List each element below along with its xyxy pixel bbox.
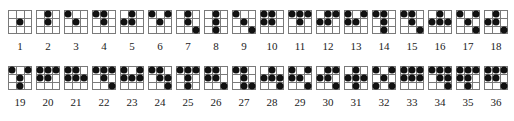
- dot-marker: [297, 19, 304, 26]
- dot-marker: [381, 27, 388, 34]
- dot-marker: [249, 83, 256, 90]
- figure-number-label: 16: [428, 40, 452, 52]
- dot-marker: [401, 67, 408, 74]
- dot-marker: [501, 67, 508, 74]
- figure-number-label: 5: [120, 40, 144, 52]
- dot-marker: [445, 83, 452, 90]
- dot-marker: [437, 11, 444, 18]
- dot-marker: [333, 83, 340, 90]
- dot-marker: [157, 75, 164, 82]
- dot-marker: [457, 11, 464, 18]
- dot-marker: [241, 67, 248, 74]
- dot-marker: [17, 75, 24, 82]
- dot-marker: [37, 75, 44, 82]
- dot-marker: [409, 67, 416, 74]
- dot-marker: [137, 67, 144, 74]
- dot-marker: [101, 67, 108, 74]
- dot-marker: [473, 67, 480, 74]
- dot-marker: [261, 11, 268, 18]
- dot-marker: [185, 83, 192, 90]
- dot-marker: [353, 67, 360, 74]
- dot-marker: [381, 11, 388, 18]
- dot-marker: [493, 75, 500, 82]
- dot-marker: [185, 11, 192, 18]
- dot-marker: [165, 11, 172, 18]
- dot-marker: [473, 27, 480, 34]
- dot-marker: [261, 75, 268, 82]
- dot-marker: [101, 11, 108, 18]
- figure-number-label: 26: [204, 96, 228, 108]
- dot-marker: [437, 75, 444, 82]
- dot-marker: [289, 11, 296, 18]
- dot-marker: [73, 75, 80, 82]
- dot-marker: [445, 19, 452, 26]
- figure-number-label: 1: [8, 40, 32, 52]
- figure-number-label: 8: [204, 40, 228, 52]
- dot-marker: [305, 67, 312, 74]
- figure-number-label: 11: [288, 40, 312, 52]
- dot-marker: [457, 75, 464, 82]
- dot-marker: [333, 11, 340, 18]
- figure-number-label: 10: [260, 40, 284, 52]
- dot-marker: [345, 75, 352, 82]
- dot-marker: [93, 11, 100, 18]
- dot-marker: [53, 67, 60, 74]
- dot-marker: [185, 75, 192, 82]
- figure-number-label: 13: [344, 40, 368, 52]
- dot-marker: [213, 19, 220, 26]
- dot-marker: [213, 11, 220, 18]
- dot-marker: [165, 75, 172, 82]
- dot-marker: [465, 19, 472, 26]
- dot-marker: [129, 11, 136, 18]
- dot-marker: [269, 19, 276, 26]
- dot-marker: [429, 67, 436, 74]
- dot-marker: [409, 19, 416, 26]
- dot-marker: [233, 11, 240, 18]
- dot-marker: [297, 75, 304, 82]
- dot-marker: [9, 67, 16, 74]
- dot-marker: [353, 75, 360, 82]
- dot-marker: [193, 27, 200, 34]
- dot-marker: [241, 19, 248, 26]
- dot-marker: [465, 83, 472, 90]
- figure-number-label: 25: [176, 96, 200, 108]
- dot-marker: [205, 67, 212, 74]
- dot-marker: [381, 75, 388, 82]
- dot-marker: [101, 75, 108, 82]
- figure-number-label: 2: [36, 40, 60, 52]
- figure-number-label: 36: [484, 96, 508, 108]
- dot-marker: [185, 19, 192, 26]
- dot-marker: [213, 27, 220, 34]
- dot-marker: [437, 67, 444, 74]
- dot-marker: [213, 67, 220, 74]
- dot-marker: [485, 19, 492, 26]
- dot-marker: [93, 67, 100, 74]
- dot-marker: [129, 19, 136, 26]
- dot-marker: [157, 19, 164, 26]
- figure-number-label: 17: [456, 40, 480, 52]
- dot-marker: [109, 83, 116, 90]
- dot-marker: [269, 75, 276, 82]
- dot-marker: [409, 11, 416, 18]
- dot-marker: [277, 75, 284, 82]
- figure-number-label: 35: [456, 96, 480, 108]
- dot-marker: [401, 11, 408, 18]
- dot-marker: [325, 75, 332, 82]
- dot-marker: [501, 83, 508, 90]
- dot-marker: [109, 67, 116, 74]
- dot-marker: [305, 83, 312, 90]
- dot-marker: [485, 75, 492, 82]
- figure-number-label: 3: [64, 40, 88, 52]
- dot-marker: [493, 67, 500, 74]
- dot-marker: [289, 75, 296, 82]
- dot-marker: [165, 83, 172, 90]
- dot-marker: [345, 19, 352, 26]
- dot-marker: [333, 67, 340, 74]
- figure-number-label: 14: [372, 40, 396, 52]
- dot-marker: [465, 75, 472, 82]
- dot-marker: [157, 67, 164, 74]
- dot-marker: [73, 67, 80, 74]
- figure-number-label: 9: [232, 40, 256, 52]
- figure-number-label: 27: [232, 96, 256, 108]
- dot-marker: [373, 67, 380, 74]
